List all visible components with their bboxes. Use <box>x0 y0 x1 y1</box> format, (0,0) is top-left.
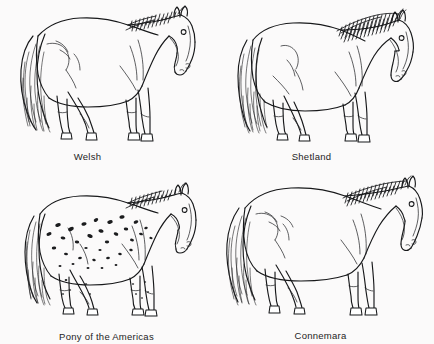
legs <box>57 88 153 141</box>
breed-cell-shetland: Shetland <box>217 0 434 172</box>
head-and-neck <box>128 6 195 86</box>
legs <box>265 262 377 315</box>
breed-cell-connemara: Connemara <box>217 172 434 344</box>
muscle-detail <box>68 220 145 268</box>
pony-of-the-americas-drawing <box>0 172 217 322</box>
breed-cell-welsh: Welsh <box>0 0 217 172</box>
muscle-detail <box>47 40 143 90</box>
tail <box>238 38 267 133</box>
mane <box>343 181 407 206</box>
legs <box>59 266 157 316</box>
appaloosa-spots <box>46 215 153 299</box>
shetland-pony-drawing <box>217 0 434 150</box>
head-and-neck <box>341 10 413 88</box>
breed-label-connemara: Connemara <box>212 330 429 342</box>
tail <box>21 34 50 132</box>
mane <box>126 12 176 31</box>
tail <box>25 214 50 305</box>
body-outline <box>37 18 159 107</box>
head-and-neck <box>345 176 422 258</box>
body-outline <box>39 196 159 285</box>
connemara-pony-drawing <box>217 172 434 322</box>
welsh-pony-drawing <box>0 0 217 150</box>
breed-cell-pony-of-the-americas: Pony of the Americas <box>0 172 217 344</box>
muscle-detail <box>256 212 366 264</box>
tail <box>227 206 256 305</box>
body-outline <box>252 23 366 111</box>
breed-label-pony-of-the-americas: Pony of the Americas <box>0 331 215 343</box>
breed-label-welsh: Welsh <box>0 151 196 163</box>
legs <box>273 92 370 142</box>
breed-plate: Welsh <box>0 0 434 344</box>
muscle-detail <box>273 45 362 96</box>
breed-label-shetland: Shetland <box>203 151 420 163</box>
body-outline <box>244 188 382 281</box>
